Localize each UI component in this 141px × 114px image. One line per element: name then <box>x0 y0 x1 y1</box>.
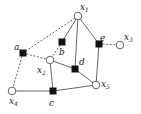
factor-label-a: a <box>14 42 19 52</box>
factor-label-c: c <box>49 98 54 108</box>
edge-x1-a <box>23 16 78 53</box>
variable-label-x1: x1 <box>80 2 89 13</box>
variable-label-x2: x2 <box>37 65 46 76</box>
variable-label-x5: x5 <box>101 79 110 90</box>
edge-x1-b <box>62 16 78 42</box>
factor-graph: abcdex1x2x3x4x5 <box>0 0 141 114</box>
edge-e-x5 <box>96 44 99 85</box>
edge-a-x4 <box>12 53 23 91</box>
variable-label-x4: x4 <box>9 96 18 107</box>
factor-node-a <box>20 50 27 57</box>
edge-c-x5 <box>53 85 96 91</box>
labels-layer: abcdex1x2x3x4x5 <box>9 2 133 108</box>
edge-x2-c <box>50 60 53 91</box>
variable-node-x5 <box>92 81 100 89</box>
variable-label-x3: x3 <box>124 32 133 43</box>
factor-node-b <box>59 39 66 46</box>
factor-label-d: d <box>79 57 85 67</box>
factor-node-d <box>72 66 79 73</box>
variable-node-x1 <box>74 12 82 20</box>
edge-x1-e <box>78 16 99 44</box>
edge-x1-d <box>75 16 78 69</box>
variable-node-x2 <box>46 56 54 64</box>
variable-node-x3 <box>116 41 124 49</box>
factor-node-c <box>50 88 57 95</box>
factor-label-e: e <box>100 33 105 43</box>
factor-label-b: b <box>59 47 65 57</box>
variable-node-x4 <box>8 87 16 95</box>
